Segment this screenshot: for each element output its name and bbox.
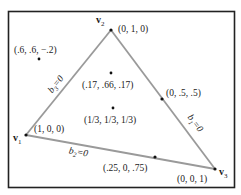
point-near-v2-dot [110,72,113,75]
point-centroid-dot [112,107,115,110]
point-outside-dot [38,58,41,61]
vertex-v1-dot [24,133,27,136]
point-on-v1v3-label: (.25, 0, .75) [103,163,147,174]
vertex-v1-coord: (1, 0, 0) [34,124,64,135]
point-near-v2-label: (.17, .66, .17) [82,80,133,91]
point-outside-label: (.6, .6, −.2) [14,45,57,56]
point-on-v1v3-dot [153,155,156,158]
diagram-frame [9,12,235,188]
vertex-v2-coord: (0, 1, 0) [118,24,148,35]
point-mid-v2v3-label: (0, .5, .5) [166,88,201,99]
point-mid-v2v3-dot [160,97,163,100]
vertex-v2-dot [109,28,112,31]
barycentric-diagram: v1 v2 v3 (1, 0, 0) (0, 1, 0) (0, 0, 1) b… [0,0,241,195]
point-centroid-label: (1/3, 1/3, 1/3) [84,115,136,126]
vertex-v3-dot [213,167,216,170]
vertex-v3-coord: (0, 0, 1) [177,174,207,185]
